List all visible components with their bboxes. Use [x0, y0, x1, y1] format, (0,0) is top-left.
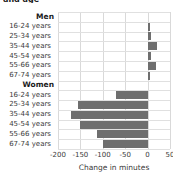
gridline-horizontal — [58, 22, 170, 23]
gridline-horizontal — [58, 71, 170, 72]
y-axis-label: 35-44 years — [0, 110, 54, 118]
y-axis-label: 55-66 years — [0, 61, 54, 69]
y-axis-label: 67-74 years — [0, 71, 54, 79]
plot-area — [58, 12, 170, 149]
bar — [148, 72, 150, 80]
y-axis-label: 16-24 years — [0, 22, 54, 30]
group-header-women: Women — [0, 80, 54, 89]
y-axis-label: 16-24 years — [0, 91, 54, 99]
x-tick-label: 50 — [155, 151, 173, 159]
bar — [116, 91, 147, 99]
gridline-horizontal — [58, 12, 170, 13]
gridline-vertical — [170, 12, 171, 149]
y-axis-label: 25-34 years — [0, 32, 54, 40]
gridline-horizontal — [58, 90, 170, 91]
y-axis-label: 55-66 years — [0, 130, 54, 138]
group-header-men: Men — [0, 12, 54, 21]
gridline-horizontal — [58, 32, 170, 33]
y-axis-label: 45-54 years — [0, 52, 54, 60]
bar — [148, 32, 151, 40]
bar — [78, 101, 147, 109]
gridline-horizontal — [58, 81, 170, 82]
bar — [80, 121, 148, 129]
chart-title: and age — [3, 0, 39, 3]
y-axis-label: 67-74 years — [0, 140, 54, 148]
y-axis-label: 25-34 years — [0, 100, 54, 108]
y-axis-label: 35-44 years — [0, 42, 54, 50]
bar — [148, 52, 152, 60]
bar — [148, 23, 150, 31]
bar — [97, 130, 148, 138]
gridline-horizontal — [58, 51, 170, 52]
bar — [71, 111, 148, 119]
gridline-horizontal — [58, 149, 170, 150]
y-axis-label: 45-54 years — [0, 120, 54, 128]
bar-chart: and age Men16-24 years25-34 years35-44 y… — [0, 0, 173, 178]
x-axis-title: Change in minutes — [58, 163, 170, 172]
bar — [148, 42, 157, 50]
bar — [103, 140, 148, 148]
bar — [148, 62, 157, 70]
